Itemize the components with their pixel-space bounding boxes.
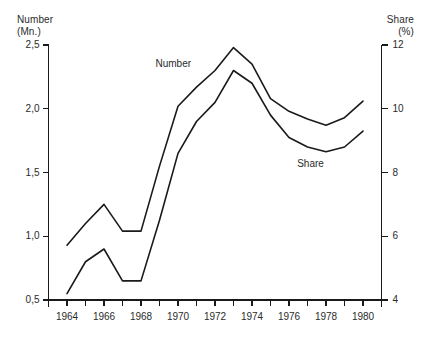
series-path-number (67, 48, 363, 246)
left-tick-label: 1,5 (14, 168, 40, 178)
right-tick-label: 6 (393, 231, 419, 241)
series-label-share: Share (297, 159, 324, 169)
x-tick-label: 1972 (195, 312, 235, 322)
right-tick-label: 8 (393, 168, 419, 178)
right-tick-label: 12 (393, 40, 419, 50)
left-tick-label: 1,0 (14, 231, 40, 241)
x-tick-label: 1974 (232, 312, 272, 322)
x-tick-label: 1980 (343, 312, 383, 322)
x-tick-label: 1966 (84, 312, 124, 322)
series-label-number: Number (156, 59, 192, 69)
x-tick-label: 1978 (306, 312, 346, 322)
chart-container: Number(Mn.) Share(%) 0,51,01,52,02,54681… (0, 0, 426, 338)
series-path-share (67, 71, 363, 294)
plot-area (0, 0, 426, 338)
x-tick-label: 1964 (47, 312, 87, 322)
x-tick-label: 1976 (269, 312, 309, 322)
axis-lines (43, 45, 388, 300)
series-lines (67, 48, 363, 294)
axis-ticks (43, 45, 388, 307)
x-tick-label: 1970 (158, 312, 198, 322)
left-tick-label: 0,5 (14, 295, 40, 305)
x-tick-label: 1968 (121, 312, 161, 322)
right-tick-label: 4 (393, 295, 419, 305)
left-tick-label: 2,0 (14, 104, 40, 114)
right-tick-label: 10 (393, 104, 419, 114)
left-tick-label: 2,5 (14, 40, 40, 50)
